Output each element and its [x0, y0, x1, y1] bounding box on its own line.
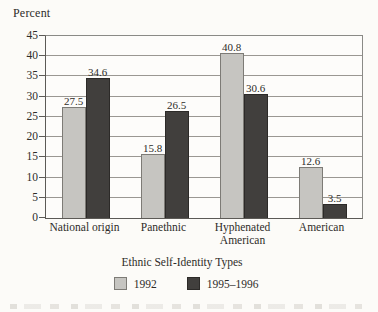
bar-1992-4: 12.6 — [299, 167, 323, 218]
bar-1992-1: 27.5 — [62, 107, 86, 218]
y-tick-label: 35 — [0, 69, 38, 82]
bar-group-national-origin: 27.534.6 — [46, 36, 125, 218]
y-tick-label: 5 — [0, 191, 38, 204]
x-axis-title: Ethnic Self-Identity Types — [24, 256, 340, 268]
bar-1992-3: 40.8 — [220, 53, 244, 218]
bar-value-label: 12.6 — [301, 155, 320, 167]
x-category-label: Panethnic — [124, 221, 203, 247]
y-tick — [39, 197, 45, 198]
bar-1995-1996-1: 34.6 — [86, 78, 110, 218]
y-axis-title: Percent — [13, 6, 50, 21]
y-tick-label: 0 — [0, 211, 38, 224]
bar-value-label: 34.6 — [88, 66, 107, 78]
y-tick — [39, 116, 45, 117]
y-tick-label: 30 — [0, 90, 38, 103]
legend-swatch-1992 — [114, 277, 127, 290]
legend-swatch-1995-1996 — [187, 277, 200, 290]
y-tick — [39, 177, 45, 178]
y-tick-label: 15 — [0, 150, 38, 163]
bar-value-label: 30.6 — [246, 82, 265, 94]
bar-value-label: 3.5 — [328, 192, 342, 204]
page-text-artifact — [10, 304, 362, 309]
y-tick-label: 20 — [0, 130, 38, 143]
bar-value-label: 15.8 — [143, 142, 162, 154]
bar-value-label: 26.5 — [167, 99, 186, 111]
bar-1995-1996-3: 30.6 — [244, 94, 268, 218]
legend: 1992 1995–1996 — [0, 277, 372, 290]
y-tick — [39, 156, 45, 157]
figure: Percent 27.534.615.826.540.830.612.63.5 … — [0, 0, 378, 312]
legend-item-1995-1996: 1995–1996 — [187, 277, 259, 290]
y-tick — [39, 75, 45, 76]
y-tick — [39, 35, 45, 36]
y-tick — [39, 217, 45, 218]
bar-groups: 27.534.615.826.540.830.612.63.5 — [46, 36, 362, 218]
bar-group-hyphenated-american: 40.830.6 — [204, 36, 283, 218]
bar-1995-1996-4: 3.5 — [323, 204, 347, 218]
y-tick-label: 40 — [0, 49, 38, 62]
bar-value-label: 27.5 — [64, 95, 83, 107]
legend-label-1992: 1992 — [134, 278, 157, 290]
x-category-label: Hyphenated American — [203, 221, 282, 247]
y-tick — [39, 136, 45, 137]
bar-value-label: 40.8 — [222, 41, 241, 53]
y-tick-label: 25 — [0, 110, 38, 123]
x-category-label: National origin — [45, 221, 124, 247]
y-tick — [39, 55, 45, 56]
legend-label-1995-1996: 1995–1996 — [207, 278, 259, 290]
plot-area: 27.534.615.826.540.830.612.63.5 — [45, 35, 363, 219]
bar-group-american: 12.63.5 — [283, 36, 362, 218]
bar-1995-1996-2: 26.5 — [165, 111, 189, 218]
y-tick — [39, 96, 45, 97]
bar-group-panethnic: 15.826.5 — [125, 36, 204, 218]
x-category-labels: National originPanethnicHyphenated Ameri… — [45, 221, 361, 247]
legend-item-1992: 1992 — [114, 277, 157, 290]
x-category-label: American — [282, 221, 361, 247]
y-tick-label: 45 — [0, 29, 38, 42]
y-tick-label: 10 — [0, 171, 38, 184]
bar-1992-2: 15.8 — [141, 154, 165, 218]
